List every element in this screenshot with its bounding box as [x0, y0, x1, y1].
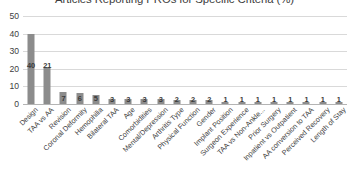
bar-slot[interactable]: 1	[217, 16, 233, 104]
bar-value-label: 7	[61, 95, 65, 102]
bar-slot[interactable]: 1	[282, 16, 298, 104]
bar-value-label: 1	[337, 96, 341, 103]
bar-slot[interactable]: 40	[23, 16, 39, 104]
bar-slot[interactable]: 1	[266, 16, 282, 104]
y-axis-tick-label: 40	[0, 30, 19, 39]
bar-value-label: 1	[321, 96, 325, 103]
bar-value-label: 3	[159, 96, 163, 103]
bar-slot[interactable]: 1	[315, 16, 331, 104]
bar-value-label: 6	[78, 95, 82, 102]
y-axis-tick-label: 10	[0, 82, 19, 91]
bar-value-label: 1	[288, 96, 292, 103]
bar-series: 4021765333322211111111	[23, 16, 347, 104]
bar-value-label: 1	[272, 96, 276, 103]
y-axis-tick-label: 20	[0, 65, 19, 74]
bar-slot[interactable]: 2	[201, 16, 217, 104]
bar-value-label: 2	[207, 96, 211, 103]
bar-value-label: 2	[175, 96, 179, 103]
y-axis-tick-label: 50	[0, 12, 19, 21]
bar-value-label: 2	[191, 96, 195, 103]
chart-figure: Articles Reporting PROs for Specific Cri…	[0, 0, 349, 186]
bar-slot[interactable]: 5	[88, 16, 104, 104]
bar-value-label: 1	[223, 96, 227, 103]
y-axis-tick-label: 30	[0, 47, 19, 56]
bar-slot[interactable]: 1	[331, 16, 347, 104]
bar-value-label: 3	[110, 96, 114, 103]
bar-value-label: 1	[240, 96, 244, 103]
bar-slot[interactable]: 2	[169, 16, 185, 104]
bar-slot[interactable]: 1	[234, 16, 250, 104]
bar-slot[interactable]: 7	[55, 16, 71, 104]
bar-value-label: 5	[94, 95, 98, 102]
bar-value-label: 3	[142, 96, 146, 103]
bar-value-label: 40	[27, 62, 35, 69]
bar[interactable]	[44, 67, 51, 104]
bar-slot[interactable]: 1	[298, 16, 314, 104]
bar-slot[interactable]: 6	[72, 16, 88, 104]
bar-slot[interactable]: 3	[104, 16, 120, 104]
bar-slot[interactable]: 3	[153, 16, 169, 104]
bar-value-label: 3	[126, 96, 130, 103]
bar-value-label: 21	[43, 62, 51, 69]
bar-slot[interactable]: 2	[185, 16, 201, 104]
bar-slot[interactable]: 3	[120, 16, 136, 104]
bar-value-label: 1	[256, 96, 260, 103]
y-axis-tick-label: 0	[0, 100, 19, 109]
x-axis-line	[23, 104, 347, 105]
bar-value-label: 1	[304, 96, 308, 103]
chart-title: Articles Reporting PROs for Specific Cri…	[0, 0, 349, 5]
bar-slot[interactable]: 3	[136, 16, 152, 104]
bar-slot[interactable]: 21	[39, 16, 55, 104]
x-axis-category-labels: DesignTAA vs AARevisionCoronal Deformity…	[23, 106, 347, 186]
bar-slot[interactable]: 1	[250, 16, 266, 104]
